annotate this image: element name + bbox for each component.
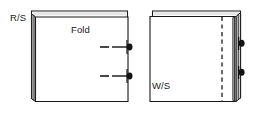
pin-head-icon — [127, 44, 133, 51]
pin-head-icon — [127, 73, 133, 80]
pin-head-icon — [239, 40, 245, 47]
right-panel-top-shadow — [154, 12, 239, 15]
fabric-fold-diagram: R/S Fold W/S — [0, 0, 259, 115]
diagram-canvas — [0, 0, 259, 115]
label-right-side: R/S — [10, 13, 26, 23]
label-wrong-side: W/S — [152, 81, 170, 91]
pin-head-icon — [239, 69, 245, 76]
left-panel-top-shadow — [33, 12, 126, 15]
label-fold: Fold — [71, 25, 90, 35]
